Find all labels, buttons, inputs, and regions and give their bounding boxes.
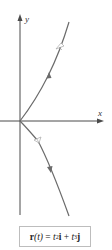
y-axis-label: y (24, 14, 29, 24)
y-axis (18, 14, 23, 215)
formula-plus: + (61, 232, 71, 242)
parametric-curve-figure: y x (0, 0, 112, 226)
curve-lower-branch (20, 121, 69, 216)
formula-argument: (t) (34, 232, 43, 242)
y-axis-arrow-icon (18, 14, 23, 21)
curve-upper-branch (20, 22, 69, 121)
x-axis (0, 119, 104, 124)
formula-equals: = (43, 232, 53, 242)
formula-box: r(t) = t2i + t3j (19, 226, 91, 247)
x-axis-label: x (97, 108, 102, 118)
curve-direction-arrow-icon (47, 72, 52, 79)
x-axis-arrow-icon (97, 119, 104, 124)
formula-unit-j: j (77, 232, 80, 242)
